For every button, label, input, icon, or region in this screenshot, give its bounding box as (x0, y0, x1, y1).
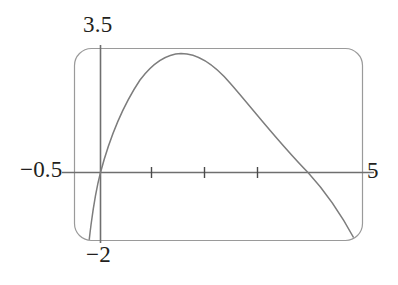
graph-window: 3.5 −0.5 5 −2 (0, 0, 398, 285)
plot-frame (75, 49, 363, 241)
x-max-label: 5 (367, 159, 379, 182)
plot-canvas (0, 0, 398, 285)
y-max-label: 3.5 (83, 13, 112, 36)
y-min-label: −0.5 (20, 158, 63, 181)
x-min-label: −2 (86, 243, 111, 266)
